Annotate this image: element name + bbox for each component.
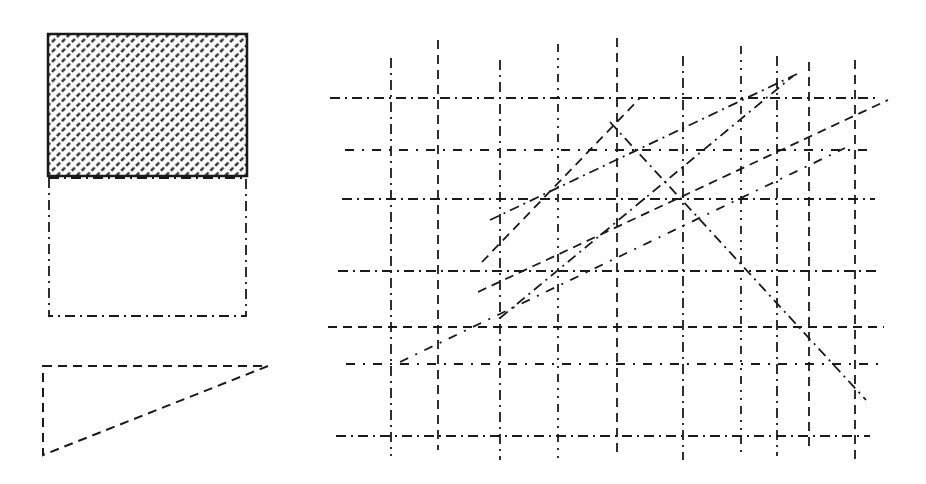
- diagonal-line: [400, 148, 845, 362]
- diagram-canvas: [0, 0, 926, 484]
- dashed-triangle: [43, 366, 268, 455]
- diagonal-line: [610, 122, 866, 400]
- legend-shapes: [43, 34, 268, 455]
- hatched-rectangle: [48, 34, 247, 176]
- grid-vertical-lines: [391, 38, 855, 460]
- dashdot-rectangle: [49, 178, 246, 316]
- grid-horizontal-lines: [328, 98, 884, 436]
- diagonal-lines: [400, 74, 888, 400]
- diagonal-line: [500, 76, 793, 318]
